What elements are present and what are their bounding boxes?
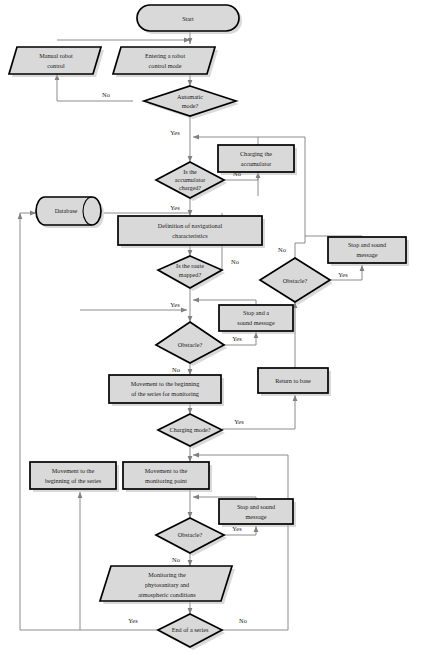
edge-label-obstacle-bottom-no: No	[172, 556, 180, 563]
node-definition-line1: Definition of navigational	[158, 222, 223, 229]
node-charging-line1: Charging the	[240, 150, 272, 157]
edge-label-route-yes: Yes	[170, 301, 180, 308]
edge-label-obstacle-middle-yes: Yes	[232, 335, 242, 342]
node-move-begin-series[interactable]: Movement to the beginning of the series	[30, 462, 119, 492]
node-monitoring-line1: Monitoring the	[148, 571, 186, 578]
edge-label-accum-no: No	[233, 170, 241, 177]
node-obstacle-right-label: Obstacle?	[283, 277, 308, 284]
node-move-begin-mon-line2: of the series for monitoring	[131, 390, 199, 397]
node-stop-bottom-line2: message	[246, 513, 267, 520]
node-return-label: Return to base	[275, 377, 311, 384]
node-accum-line1: Is the	[183, 168, 197, 175]
node-entering-line2: control mode	[149, 62, 182, 69]
node-definition-line2: characteristics	[172, 232, 208, 239]
node-stop-a-line1: Stop and a	[243, 309, 269, 316]
edge-label-obstacle-bottom-yes: Yes	[232, 525, 242, 532]
node-stop-sound-right[interactable]: Stop and sound message	[328, 237, 409, 266]
node-move-begin-mon-line1: Movement to the beginning	[131, 380, 200, 387]
node-database[interactable]: Database	[36, 197, 104, 228]
node-start[interactable]: Start	[137, 5, 242, 34]
node-automatic-line1: Automatic	[177, 93, 203, 100]
flowchart-canvas: Start Manual robot control Entering a ro…	[0, 0, 426, 657]
node-return-to-base[interactable]: Return to base	[258, 368, 331, 396]
edge-label-charge-yes: Yes	[234, 418, 244, 425]
node-start-label: Start	[182, 15, 194, 22]
node-monitoring-conditions[interactable]: Monitoring the phytosanitary and atmosph…	[100, 566, 235, 604]
node-stop-a-sound-message[interactable]: Stop and a sound message	[219, 305, 296, 334]
node-obstacle-bottom-label: Obstacle?	[178, 531, 203, 538]
node-stop-right-line2: message	[357, 251, 378, 258]
node-manual-line1: Manual robot	[39, 52, 73, 59]
node-route-line1: Is the route	[176, 262, 204, 269]
node-manual-line2: control	[47, 62, 65, 69]
edge-label-obstacle-right-no: No	[278, 246, 286, 253]
node-stop-right-line1: Stop and sound	[348, 241, 387, 248]
node-charging-line2: accumulator	[241, 160, 272, 167]
node-charge-mode-label: Charging mode?	[170, 426, 211, 433]
node-manual-robot-control[interactable]: Manual robot control	[9, 47, 104, 77]
node-accum-line3: charged?	[179, 184, 201, 191]
edge-label-automatic-no: No	[102, 91, 110, 98]
node-route-line2: mapped?	[179, 271, 202, 278]
node-charging-accumulator[interactable]: Charging the accumulator	[218, 145, 297, 175]
edge-label-automatic-yes: Yes	[170, 129, 180, 136]
node-move-monitoring-point[interactable]: Movement to the monitoring point	[123, 462, 212, 492]
edge-label-end-yes: Yes	[128, 617, 138, 624]
node-monitoring-line3: atmospheric conditions	[138, 591, 196, 598]
node-stop-a-line2: sound message	[237, 319, 275, 326]
node-obstacle-middle-label: Obstacle?	[178, 341, 203, 348]
edge-label-obstacle-middle-no: No	[172, 366, 180, 373]
node-move-begin-line2: beginning of the series	[45, 477, 102, 484]
edge-label-obstacle-right-yes: Yes	[338, 271, 348, 278]
node-stop-bottom-line1: Stop and sound	[237, 503, 276, 510]
node-entering-line1: Entering a robot	[145, 52, 185, 59]
edge-label-accum-yes: Yes	[170, 204, 180, 211]
node-move-begin-line1: Movement to the	[52, 467, 95, 474]
node-automatic-line2: mode?	[182, 102, 199, 109]
node-end-series-label: End of a series	[172, 626, 209, 633]
node-stop-sound-bottom[interactable]: Stop and sound message	[219, 499, 296, 527]
edge-label-route-no: No	[231, 258, 239, 265]
node-monitoring-line2: phytosanitary and	[145, 581, 190, 588]
node-move-begin-monitoring[interactable]: Movement to the beginning of the series …	[109, 375, 224, 406]
node-accum-line2: accumulator	[175, 176, 206, 183]
node-database-label: Database	[55, 207, 78, 214]
edge-label-end-no: No	[239, 617, 247, 624]
node-move-point-line1: Movement to the	[145, 467, 188, 474]
node-entering-control-mode[interactable]: Entering a robot control mode	[113, 47, 218, 77]
node-definition-navigational[interactable]: Definition of navigational characteristi…	[118, 216, 265, 248]
node-move-point-line2: monitoring point	[145, 477, 187, 484]
